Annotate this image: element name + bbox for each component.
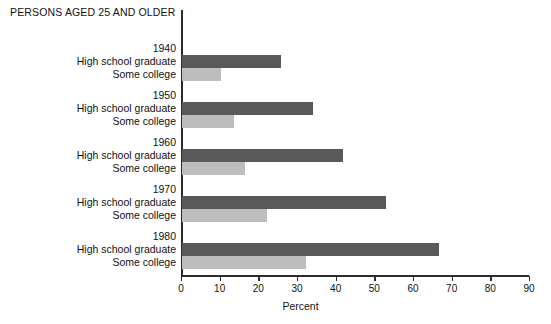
x-tick-label-90: 90 xyxy=(523,283,534,294)
bar-hs xyxy=(182,55,281,68)
x-axis-line xyxy=(181,275,529,277)
bar-row: High school graduate xyxy=(0,55,551,68)
bar-row-label: Some college xyxy=(112,68,176,81)
bar-row-label: High school graduate xyxy=(77,149,176,162)
bar-row: High school graduate xyxy=(0,196,551,209)
x-tick-70 xyxy=(452,276,453,281)
x-tick-label-70: 70 xyxy=(446,283,457,294)
x-tick-label-60: 60 xyxy=(407,283,418,294)
x-tick-40 xyxy=(336,276,337,281)
x-tick-90 xyxy=(529,276,530,281)
bar-row: Some college xyxy=(0,162,551,175)
bar-row: Some college xyxy=(0,209,551,222)
bar-row: Some college xyxy=(0,256,551,269)
bar-row: Some college xyxy=(0,115,551,128)
bar-sc xyxy=(182,209,267,222)
x-tick-label-20: 20 xyxy=(253,283,264,294)
bar-row-label: Some college xyxy=(112,209,176,222)
group-year-label: 1970 xyxy=(153,183,176,195)
bar-hs xyxy=(182,243,439,256)
x-tick-60 xyxy=(413,276,414,281)
bar-sc xyxy=(182,256,306,269)
bar-hs xyxy=(182,196,386,209)
group-year-label: 1960 xyxy=(153,136,176,148)
bar-row-label: Some college xyxy=(112,162,176,175)
bar-row: High school graduate xyxy=(0,149,551,162)
bar-row-label: High school graduate xyxy=(77,102,176,115)
x-tick-20 xyxy=(258,276,259,281)
x-tick-label-30: 30 xyxy=(291,283,302,294)
group-year-label: 1940 xyxy=(153,42,176,54)
bar-row: Some college xyxy=(0,68,551,81)
chart-container: PERSONS AGED 25 AND OLDER 01020304050607… xyxy=(0,0,551,324)
bar-sc xyxy=(182,68,221,81)
chart-title: PERSONS AGED 25 AND OLDER xyxy=(10,6,175,18)
x-tick-0 xyxy=(181,276,182,281)
x-axis-title: Percent xyxy=(0,300,551,312)
x-tick-50 xyxy=(374,276,375,281)
x-tick-30 xyxy=(297,276,298,281)
y-axis-line xyxy=(181,10,183,276)
bar-hs xyxy=(182,102,313,115)
bar-row: High school graduate xyxy=(0,102,551,115)
bar-row-label: High school graduate xyxy=(77,243,176,256)
bar-row-label: Some college xyxy=(112,115,176,128)
x-tick-label-80: 80 xyxy=(485,283,496,294)
bar-sc xyxy=(182,115,234,128)
bar-sc xyxy=(182,162,245,175)
x-axis-title-text: Percent xyxy=(282,300,318,312)
group-year-label: 1950 xyxy=(153,89,176,101)
x-tick-label-50: 50 xyxy=(369,283,380,294)
x-tick-label-10: 10 xyxy=(214,283,225,294)
x-tick-10 xyxy=(220,276,221,281)
bar-row-label: High school graduate xyxy=(77,55,176,68)
group-year-label: 1980 xyxy=(153,230,176,242)
bar-row-label: High school graduate xyxy=(77,196,176,209)
bar-row-label: Some college xyxy=(112,256,176,269)
x-tick-label-40: 40 xyxy=(330,283,341,294)
bar-hs xyxy=(182,149,343,162)
x-tick-label-0: 0 xyxy=(178,283,184,294)
bar-row: High school graduate xyxy=(0,243,551,256)
x-tick-80 xyxy=(490,276,491,281)
